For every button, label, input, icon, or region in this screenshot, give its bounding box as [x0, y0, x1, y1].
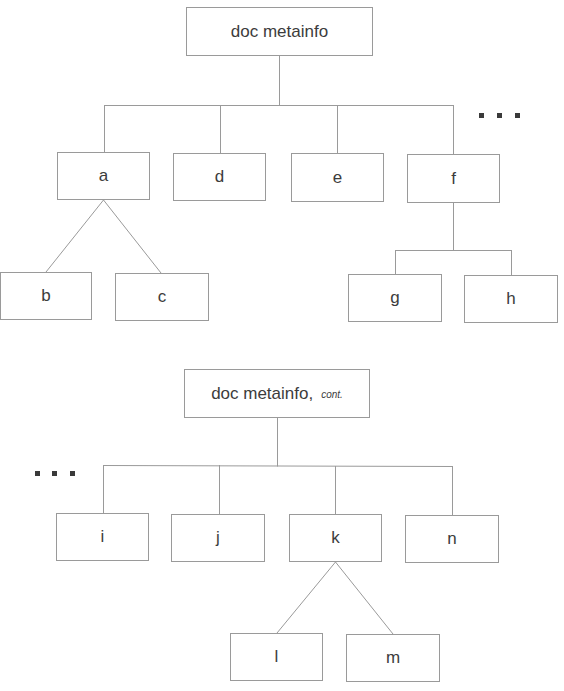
node-label: f: [451, 169, 456, 189]
node-m: m: [346, 634, 440, 682]
node-k: k: [289, 514, 382, 562]
node-label: g: [390, 288, 399, 308]
node-label: a: [99, 166, 108, 186]
node-label: d: [215, 167, 224, 187]
node-label: doc metainfo,: [211, 384, 313, 404]
node-d: d: [173, 153, 266, 201]
cont-label: cont.: [321, 389, 343, 400]
node-label: c: [158, 287, 167, 307]
node-c: c: [115, 273, 209, 321]
node-e: e: [291, 153, 384, 202]
node-label: l: [275, 647, 279, 667]
node-label: e: [333, 168, 342, 188]
root-node-doc-metainfo-cont: doc metainfo, cont.: [184, 369, 370, 418]
node-a: a: [57, 152, 150, 200]
node-i: i: [56, 513, 149, 561]
node-j: j: [171, 514, 265, 562]
node-label: j: [216, 528, 220, 548]
connector-lines: [0, 0, 564, 691]
node-h: h: [464, 275, 558, 323]
node-label: h: [506, 289, 515, 309]
node-l: l: [230, 633, 323, 681]
node-g: g: [348, 274, 442, 322]
node-label: n: [447, 529, 456, 549]
node-label: b: [41, 286, 50, 306]
node-b: b: [0, 272, 92, 320]
node-label: m: [386, 648, 400, 668]
node-label: i: [101, 527, 105, 547]
node-label: doc metainfo: [231, 22, 328, 42]
node-f: f: [407, 154, 500, 203]
node-n: n: [405, 515, 499, 563]
node-label: k: [331, 528, 340, 548]
root-node-doc-metainfo: doc metainfo: [186, 7, 373, 56]
